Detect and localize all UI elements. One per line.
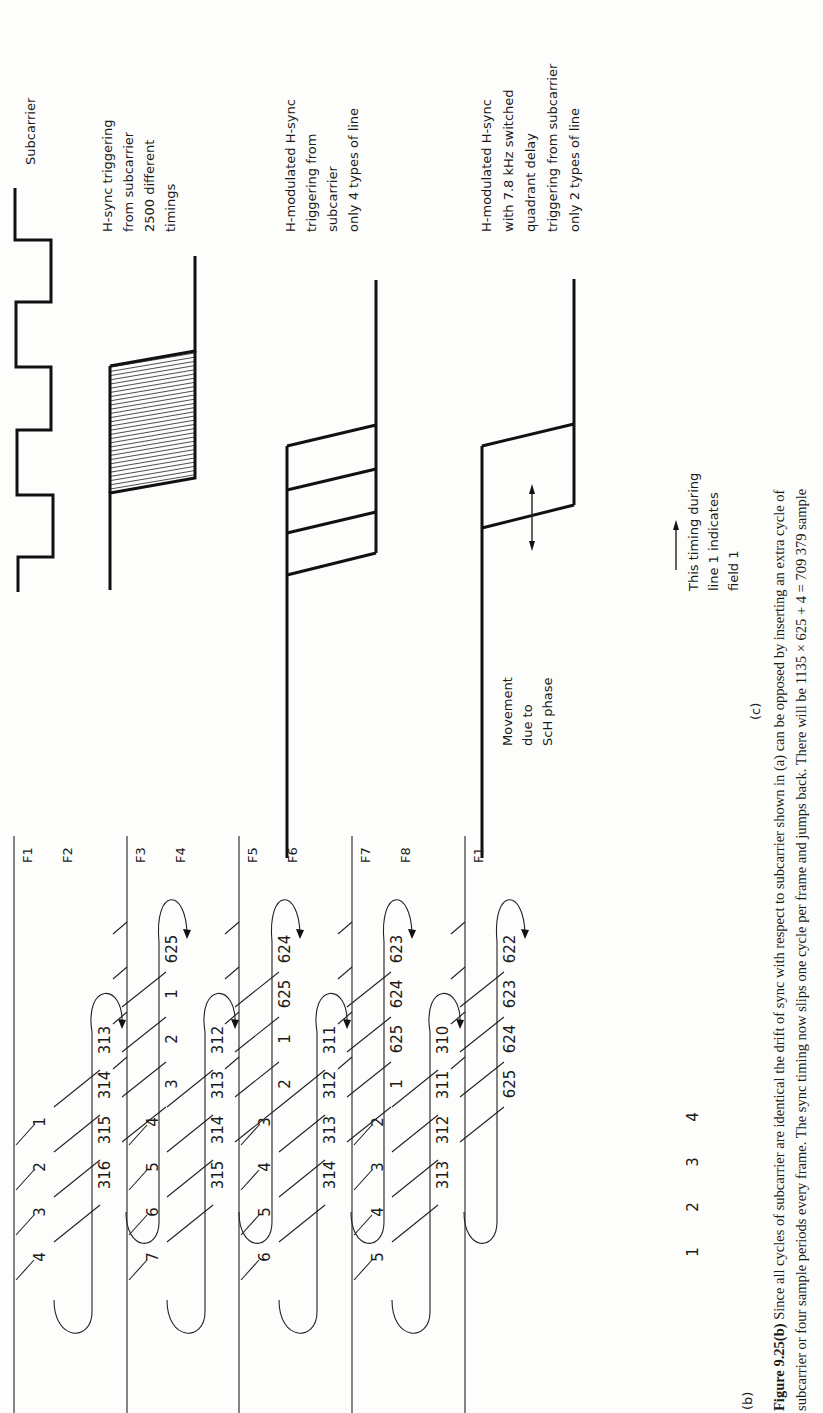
line-number: 313 (321, 1116, 339, 1145)
line-number: 312 (209, 1026, 227, 1055)
label-line: from subcarrier (121, 131, 136, 232)
label-line: only 2 types of line (567, 108, 582, 232)
line-number: 622 (501, 935, 519, 964)
subcarrier-label: Subcarrier (23, 97, 38, 165)
label-line: field 1 (726, 551, 741, 591)
h-modulated-hsync-label: H-modulated H-synctriggering fromsubcarr… (283, 99, 361, 232)
line-number: 2 (163, 1034, 181, 1044)
line-number: 314 (209, 1116, 227, 1145)
line-number: 311 (434, 1071, 452, 1100)
h-modulated-hsync-quadrant-label: H-modulated H-syncwith 7.8 kHz switchedq… (479, 63, 582, 232)
arrowhead-icon (183, 929, 191, 939)
h-modulated-hsync-quadrant-waveform (482, 279, 574, 858)
panel-c: Subcarrier H-sync triggeringfrom subcarr… (15, 63, 763, 858)
line-number: 624 (501, 1025, 519, 1054)
line-number: 5 (144, 1162, 162, 1172)
arrowhead-icon (408, 929, 416, 939)
line-number: 3 (256, 1117, 274, 1127)
panel-c-label: (c) (748, 703, 763, 720)
line-number: 625 (276, 980, 294, 1009)
panel-b: F1F21313625231413315243163F3F44312624531… (14, 836, 702, 1413)
label-line: This timing during (686, 473, 701, 592)
field-label: F8 (398, 847, 413, 863)
label-line: H-modulated H-sync (479, 99, 494, 232)
label-line: line 1 indicates (706, 492, 721, 591)
field-label: F6 (285, 847, 300, 863)
line-number: 3 (31, 1207, 49, 1217)
line-number: 6 (144, 1207, 162, 1217)
line-number: 1 (31, 1117, 49, 1127)
line-number: 6 (256, 1252, 274, 1262)
arrowhead-icon (296, 929, 304, 939)
line-number: 312 (434, 1116, 452, 1145)
label-line: quadrant delay (523, 133, 538, 232)
label-line: triggering from (304, 134, 319, 232)
figure-caption-line-1: Figure 9.25(b) Since all cycles of subca… (771, 489, 788, 1411)
field-label: F3 (133, 847, 148, 863)
label-line: only 4 types of line (346, 108, 361, 232)
subcarrier-waveform (15, 188, 53, 592)
line-number: 625 (501, 1070, 519, 1099)
label-line: 2500 different (142, 140, 157, 232)
label-line: with 7.8 kHz switched (501, 89, 516, 232)
timing-note: This timing duringline 1 indicatesfield … (686, 473, 741, 592)
line-number: 3 (684, 1157, 702, 1167)
line-number: 2 (31, 1162, 49, 1172)
arrowhead-icon (521, 929, 529, 939)
line-number: 623 (388, 935, 406, 964)
line-number: 316 (96, 1161, 114, 1190)
arrowhead-icon (456, 1019, 464, 1029)
line-number: 4 (369, 1207, 387, 1217)
line-number: 4 (144, 1117, 162, 1127)
label-line: due to (520, 704, 535, 746)
label-line: subcarrier (325, 166, 340, 232)
arrowhead-icon (343, 1019, 351, 1029)
panel-b-label: (b) (740, 1392, 755, 1410)
line-number: 5 (369, 1252, 387, 1262)
line-number: 3 (369, 1162, 387, 1172)
line-number: 4 (684, 1112, 702, 1122)
field-label: F4 (173, 847, 188, 863)
field-label: F5 (245, 847, 260, 863)
field-label: F1 (471, 847, 486, 863)
line-number: 311 (321, 1026, 339, 1055)
line-number: 1 (276, 1034, 294, 1044)
hsync-triggering-label: H-sync triggeringfrom subcarrier2500 dif… (100, 120, 178, 232)
movement-note: Movementdue toScH phase (500, 677, 555, 746)
line-number: 1 (388, 1079, 406, 1089)
label-line: Subcarrier (23, 97, 38, 165)
line-number: 313 (434, 1161, 452, 1190)
line-number: 7 (144, 1252, 162, 1262)
line-number: 624 (276, 935, 294, 964)
line-number: 315 (96, 1116, 114, 1145)
line-number: 4 (256, 1162, 274, 1172)
line-number: 625 (163, 935, 181, 964)
label-line: triggering from subcarrier (545, 63, 560, 232)
line-number: 315 (209, 1161, 227, 1190)
figure-number: Figure 9.25(b) (771, 1323, 788, 1411)
arrowhead-icon (118, 1019, 126, 1029)
line-number: 314 (96, 1071, 114, 1100)
line-number: 5 (256, 1207, 274, 1217)
line-number: 2 (276, 1079, 294, 1089)
hsync-triggering-waveform (108, 256, 197, 590)
label-line: timings (163, 184, 178, 232)
label-line: H-modulated H-sync (283, 99, 298, 232)
label-line: ScH phase (540, 677, 555, 746)
timing-arrow-icon (673, 520, 679, 570)
line-number: 313 (96, 1026, 114, 1055)
line-number: 2 (369, 1117, 387, 1127)
rotated-figure-page: Subcarrier H-sync triggeringfrom subcarr… (0, 0, 823, 1413)
label-line: H-sync triggering (100, 120, 115, 232)
line-number: 623 (501, 980, 519, 1009)
field-label: F2 (60, 847, 75, 863)
caption-text-1: Since all cycles of subcarrier are ident… (771, 489, 788, 1323)
arrowhead-icon (231, 1019, 239, 1029)
line-number: 312 (321, 1071, 339, 1100)
h-modulated-hsync-waveform (287, 280, 376, 858)
field-label: F7 (358, 847, 373, 863)
label-line: Movement (500, 677, 515, 746)
field-label: F1 (20, 847, 35, 863)
line-number: 313 (209, 1071, 227, 1100)
line-number: 624 (388, 980, 406, 1009)
